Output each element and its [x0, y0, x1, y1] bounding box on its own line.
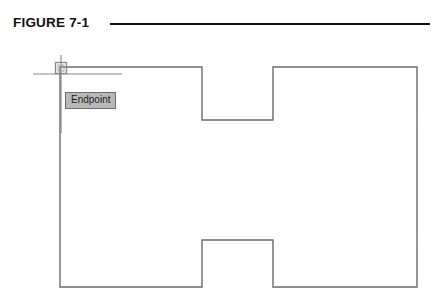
figure-label: FIGURE 7-1 — [13, 15, 89, 30]
endpoint-tooltip: Endpoint — [65, 92, 116, 109]
figure-page: FIGURE 7-1 Endpoint — [0, 0, 437, 302]
drawing-canvas[interactable] — [0, 38, 437, 302]
figure-header-rule — [110, 23, 430, 25]
drawing-svg — [0, 38, 437, 302]
figure-header: FIGURE 7-1 — [0, 0, 437, 40]
